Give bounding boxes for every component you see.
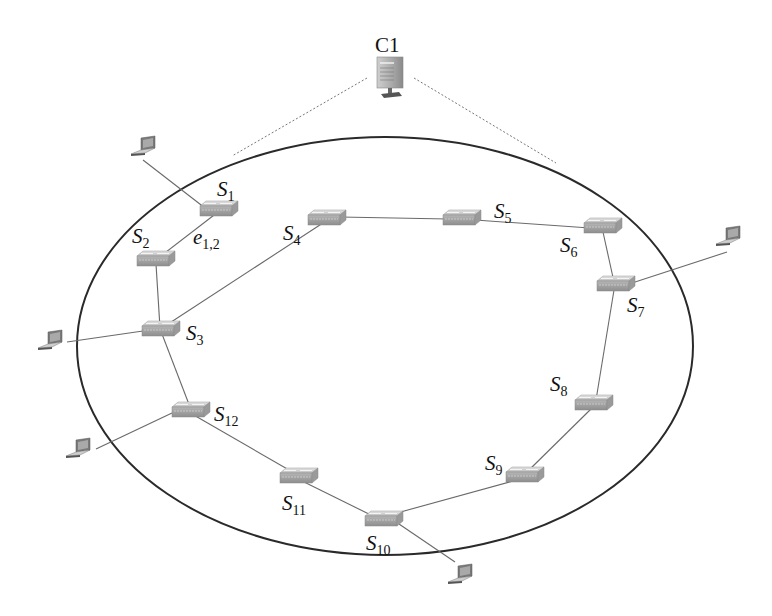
link-s2-s3 [156,264,160,328]
link-s10-s11 [300,480,379,519]
switch-s2[interactable] [137,251,175,266]
controller-c1[interactable]: C1 [375,33,403,98]
link-h4-s12 [96,413,172,449]
link-s8-s9 [527,408,592,472]
link-h2-s7 [632,252,727,283]
switch-label-s5: S5 [494,199,512,226]
switch-label-s1: S1 [217,177,235,204]
switch-label-s4: S4 [283,221,301,248]
switch-s9[interactable] [506,467,544,482]
switch-s7[interactable] [597,276,635,291]
switch-label-s2: S2 [132,224,150,251]
switch-label-s8: S8 [550,372,568,399]
host-laptop-4[interactable] [66,438,90,458]
host-laptop-5[interactable] [448,564,472,584]
switch-label-s7: S7 [627,293,645,320]
host-laptop-1[interactable] [131,136,155,156]
switch-s3[interactable] [142,321,180,336]
edge-label-e12: e1,2 [193,225,220,252]
switch-label-s10: S10 [366,531,391,558]
switch-label-s11: S11 [282,491,306,518]
switch-links [156,212,614,519]
link-s5-s6 [475,220,590,228]
switch-s8[interactable] [575,395,613,410]
network-diagram: C1 S1 S2 S3 S4 S5 S6 S7 S8 S9 S10 S11 S1… [0,0,772,616]
switch-label-s12: S12 [214,402,239,429]
host-links [67,160,727,562]
link-s3-s4 [162,221,326,328]
link-s9-s10 [386,478,524,516]
switch-s12[interactable] [172,402,210,417]
switch-s5[interactable] [443,210,481,225]
switch-s10[interactable] [365,511,403,526]
switch-s6[interactable] [584,218,622,233]
link-s11-s12 [192,414,296,474]
link-h5-s10 [399,524,455,562]
switch-label-s9: S9 [485,451,503,478]
switch-s11[interactable] [280,468,318,483]
link-s7-s8 [596,290,614,400]
control-domain-ring [77,137,693,555]
switch-label-s3: S3 [186,321,204,348]
link-s4-s5 [340,217,448,219]
controller-label: C1 [375,33,400,57]
link-s6-s7 [603,232,614,282]
switch-label-s6: S6 [560,233,578,260]
host-laptop-3[interactable] [38,330,62,350]
control-link-right [414,78,556,163]
switch-s4[interactable] [308,210,346,225]
server-icon [377,57,403,88]
link-h1-s1 [143,160,205,208]
host-laptop-2[interactable] [716,226,740,246]
